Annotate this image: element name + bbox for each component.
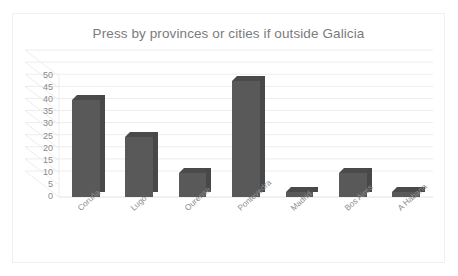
bar-front-face <box>232 81 260 197</box>
y-axis-tick-label: 30 <box>27 119 53 128</box>
y-axis-tick-label: 40 <box>27 95 53 104</box>
bar[interactable] <box>232 81 260 197</box>
bar-side-face <box>100 95 105 192</box>
y-axis-tick-label: 5 <box>27 180 53 189</box>
y-axis-tick-label: 10 <box>27 168 53 177</box>
y-axis-tick-label: 15 <box>27 156 53 165</box>
y-axis-tick-label: 25 <box>27 132 53 141</box>
bar-side-face <box>313 187 318 192</box>
plot-area <box>13 14 446 264</box>
y-axis-tick-labels: 50454035302520151050 <box>27 14 53 264</box>
bar[interactable] <box>72 100 100 197</box>
bar-front-face <box>72 100 100 197</box>
y-axis-tick-label: 50 <box>27 71 53 80</box>
bar-side-face <box>260 76 265 192</box>
bar-front-face <box>125 137 153 198</box>
y-axis-tick-label: 35 <box>27 107 53 116</box>
y-axis-tick-label: 0 <box>27 192 53 201</box>
y-axis-tick-label: 20 <box>27 144 53 153</box>
bar[interactable] <box>125 137 153 198</box>
bar-side-face <box>153 132 158 193</box>
chart-card: Press by provinces or cities if outside … <box>12 13 445 263</box>
y-axis-tick-label: 45 <box>27 83 53 92</box>
